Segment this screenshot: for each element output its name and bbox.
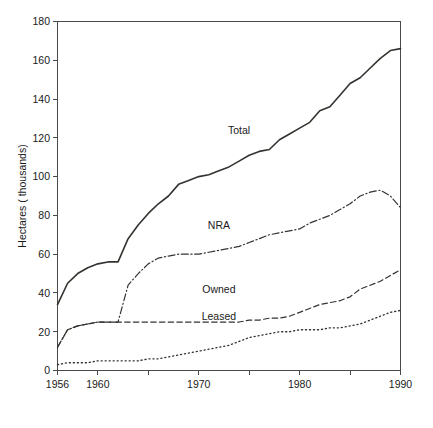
y-tick-label: 20	[38, 326, 50, 338]
y-tick-label: 40	[38, 287, 50, 299]
y-tick-label: 120	[32, 132, 50, 144]
y-tick-label: 100	[32, 170, 50, 182]
y-tick-label-group: 020406080100120140160180	[32, 15, 50, 376]
y-axis-title: Hectares ( thousands)	[16, 144, 28, 247]
y-axis-title-group: Hectares ( thousands)	[16, 144, 28, 247]
x-tick-label-group: 19561960197019801990	[46, 378, 413, 390]
chart-plot-area: 020406080100120140160180 195619601970198…	[0, 0, 433, 428]
y-tick-label: 140	[32, 93, 50, 105]
y-tick-group	[53, 22, 58, 371]
series-line-nra	[58, 190, 401, 347]
x-tick-group	[58, 371, 401, 376]
y-tick-label: 60	[38, 248, 50, 260]
x-tick-label: 1960	[86, 378, 110, 390]
series-label-total: Total	[228, 124, 250, 136]
y-tick-label: 80	[38, 209, 50, 221]
y-tick-label: 0	[44, 364, 50, 376]
y-tick-label: 180	[32, 15, 50, 27]
series-label-group: TotalNRAOwnedLeased	[202, 124, 250, 322]
x-tick-label: 1980	[288, 378, 312, 390]
x-tick-label: 1990	[389, 378, 413, 390]
series-label-owned: Owned	[202, 283, 235, 295]
series-label-leased: Leased	[202, 310, 237, 322]
series-line-owned	[58, 270, 401, 348]
x-tick-label: 1970	[187, 378, 211, 390]
series-line-total	[58, 49, 401, 305]
chart-figure: 020406080100120140160180 195619601970198…	[0, 0, 433, 428]
x-tick-label: 1956	[46, 378, 70, 390]
series-label-nra: NRA	[208, 219, 230, 231]
y-tick-label: 160	[32, 54, 50, 66]
